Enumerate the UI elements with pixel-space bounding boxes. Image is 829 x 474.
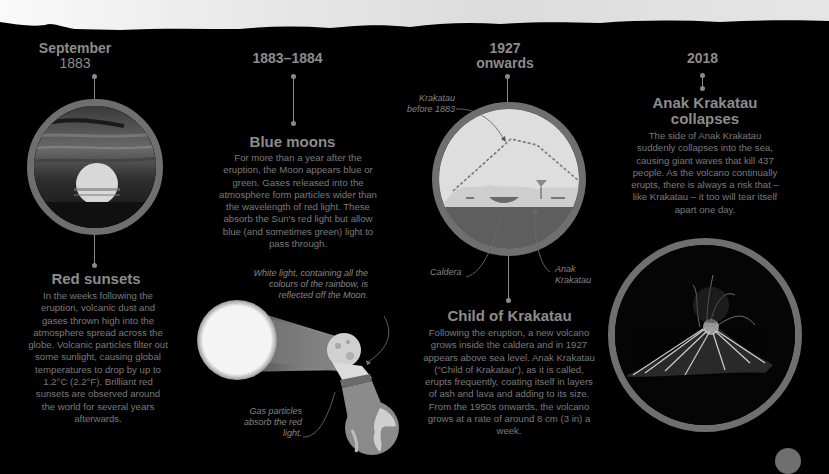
- anak-krakatau-annotation: Anak Krakatau: [555, 264, 605, 286]
- date-sub: 1883: [20, 56, 130, 71]
- timeline-dot: [506, 298, 511, 303]
- section-title: Red sunsets: [20, 271, 172, 287]
- partial-circle-marker: [775, 448, 801, 474]
- caldera-cross-section: [439, 109, 579, 249]
- section-title: Blue moons: [220, 134, 365, 150]
- caldera-diagram: [432, 102, 586, 256]
- date-label-4: 2018: [665, 51, 740, 66]
- sunset-image: [34, 106, 156, 228]
- caldera-annotation: Caldera: [430, 267, 470, 278]
- date-label-2: 1883–1884: [230, 51, 345, 66]
- section-body: Following the eruption, a new volcano gr…: [420, 327, 598, 438]
- timeline-dot: [92, 263, 97, 268]
- timeline-stem: [94, 77, 95, 99]
- moon-icon: [327, 333, 361, 367]
- gas-particles-annotation: Gas particles absorb the red light.: [232, 406, 302, 439]
- krakatau-before-annotation: Krakatau before 1883: [393, 93, 455, 115]
- sea: [439, 207, 579, 249]
- timeline-dot: [700, 86, 705, 91]
- white-light-annotation: White light, containing all the colours …: [250, 268, 368, 301]
- section-body: For more than a year after the eruption,…: [218, 152, 378, 250]
- sun-icon: [197, 300, 277, 380]
- section-body: The side of Anak Krakatau suddenly colla…: [630, 130, 780, 216]
- reflected-beam: [332, 362, 372, 385]
- section-body: In the weeks following the eruption, vol…: [28, 290, 168, 425]
- date-main: September: [20, 41, 130, 56]
- light-beam: [238, 306, 342, 372]
- date-label-3: 1927 onwards: [455, 41, 555, 71]
- timeline-stem: [293, 76, 294, 123]
- date-main: 1927: [455, 41, 555, 56]
- timeline-dot: [291, 121, 296, 126]
- earth-icon: [345, 401, 399, 455]
- timeline-stem: [94, 235, 95, 265]
- red-sunset-photo: [27, 99, 163, 235]
- timeline-stem: [507, 77, 508, 102]
- section-title: Anak Krakatau collapses: [640, 95, 770, 127]
- date-sub: onwards: [455, 56, 555, 71]
- date-main: 2018: [665, 51, 740, 66]
- timeline-stem: [508, 256, 509, 300]
- gas-particle-band: [340, 374, 372, 388]
- volcano-eruption-image: [615, 245, 795, 425]
- section-title: Child of Krakatau: [432, 308, 587, 324]
- date-label-1: September 1883: [20, 41, 130, 71]
- erupting-volcano-photo: [608, 238, 802, 432]
- date-main: 1883–1884: [230, 51, 345, 66]
- sky-banner: [0, 0, 829, 36]
- skyline-silhouette: [0, 0, 829, 36]
